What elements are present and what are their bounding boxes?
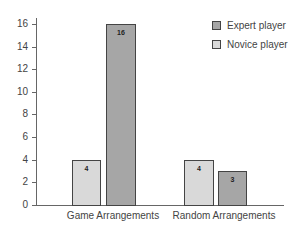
legend-item-expert: Expert player: [212, 16, 288, 35]
legend-label: Expert player: [227, 20, 286, 31]
x-category-label: Game Arrangements: [58, 210, 168, 221]
y-tick: [32, 182, 36, 183]
y-tick: [32, 137, 36, 138]
legend-swatch-expert: [212, 21, 221, 30]
y-tick: [32, 69, 36, 70]
bar-value-label: 4: [185, 165, 213, 172]
bar-value-label: 16: [107, 29, 135, 36]
y-tick: [32, 114, 36, 115]
y-tick: [32, 24, 36, 25]
y-tick: [32, 92, 36, 93]
legend-swatch-novice: [212, 40, 221, 49]
legend: Expert player Novice player: [212, 16, 288, 54]
y-tick-label: 2: [2, 177, 28, 187]
legend-item-novice: Novice player: [212, 35, 288, 54]
x-category-label: Random Arrangements: [164, 210, 284, 221]
bar-random-novice: 4: [184, 160, 214, 206]
y-tick-label: 16: [2, 19, 28, 29]
y-tick-label: 8: [2, 109, 28, 119]
bar-game-expert: 16: [106, 24, 136, 206]
y-tick-label: 12: [2, 64, 28, 74]
y-tick-label: 0: [2, 200, 28, 210]
bar-random-expert: 3: [218, 171, 247, 206]
y-tick: [32, 205, 36, 206]
y-tick-label: 6: [2, 132, 28, 142]
y-tick: [32, 160, 36, 161]
legend-label: Novice player: [227, 39, 288, 50]
y-tick-label: 4: [2, 155, 28, 165]
bar-game-novice: 4: [72, 160, 101, 206]
bar-value-label: 4: [73, 165, 100, 172]
y-tick-label: 14: [2, 42, 28, 52]
y-tick: [32, 47, 36, 48]
bar-value-label: 3: [219, 176, 246, 183]
y-tick-label: 10: [2, 87, 28, 97]
y-axis: [36, 18, 37, 205]
